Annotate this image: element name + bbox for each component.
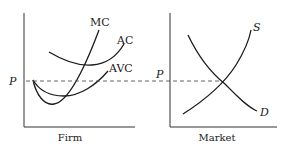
avc-label: AVC — [108, 62, 133, 75]
supply-label: S — [253, 21, 261, 34]
market-panel: S D P Market — [155, 13, 277, 143]
market-caption: Market — [199, 132, 236, 143]
diagram-canvas: MC AC AVC P Firm S D P Market — [0, 0, 286, 150]
supply-curve — [183, 30, 251, 114]
firm-price-label: P — [8, 75, 17, 88]
avc-curve — [33, 71, 108, 96]
mc-label: MC — [90, 16, 110, 29]
demand-label: D — [259, 106, 269, 119]
ac-label: AC — [116, 34, 133, 47]
market-price-label: P — [155, 68, 164, 81]
demand-curve — [188, 35, 257, 111]
mc-curve — [33, 30, 99, 104]
firm-panel: MC AC AVC P Firm — [8, 13, 135, 143]
firm-caption: Firm — [58, 132, 83, 143]
